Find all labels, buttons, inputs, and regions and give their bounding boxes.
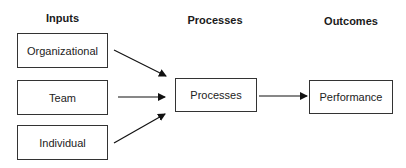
arrow-organizational-to-processes [114,50,166,76]
arrows-layer [0,0,406,168]
arrow-individual-to-processes [114,114,165,143]
